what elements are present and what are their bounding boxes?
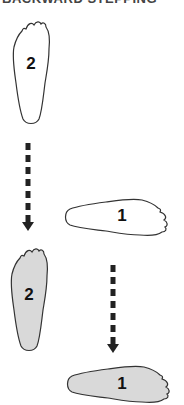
arrow-foot-2-dash (26, 191, 31, 198)
arrow-foot-2-dash (26, 167, 31, 174)
arrow-foot-1 (107, 265, 119, 353)
arrow-foot-2-dash (26, 155, 31, 162)
arrow-down-icon (107, 344, 119, 353)
arrow-foot-2-dash (26, 215, 31, 223)
stepping-diagram: 2 1 2 1 (0, 0, 184, 405)
arrow-foot-2-dash (26, 179, 31, 186)
arrow-foot-1-dash (111, 325, 116, 332)
foot-2-end-label: 2 (24, 285, 33, 304)
arrow-foot-2-dash (26, 143, 31, 150)
foot-1-start-label: 1 (117, 206, 126, 225)
arrow-foot-1-dash (111, 337, 116, 345)
foot-1-end: 1 (68, 366, 170, 402)
arrow-foot-2 (22, 143, 34, 231)
arrow-down-icon (22, 222, 34, 231)
foot-1-start: 1 (66, 199, 168, 235)
arrow-foot-1-dash (111, 313, 116, 320)
foot-2-start-label: 2 (26, 54, 35, 73)
arrow-foot-1-dash (111, 301, 116, 308)
foot-2-start: 2 (13, 22, 49, 124)
arrow-foot-1-dash (111, 265, 116, 272)
foot-2-end: 2 (11, 249, 47, 351)
arrow-foot-1-dash (111, 277, 116, 284)
arrow-foot-1-dash (111, 289, 116, 296)
arrow-foot-2-dash (26, 203, 31, 210)
foot-1-end-label: 1 (117, 374, 126, 393)
